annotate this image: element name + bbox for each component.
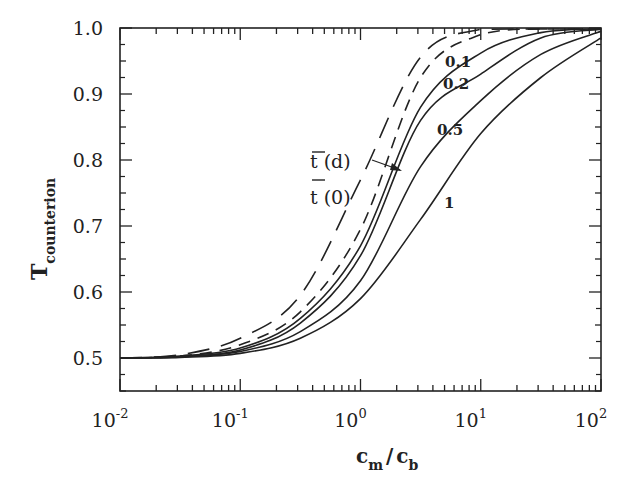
x-tick-label: 100 [334, 406, 366, 431]
x-title-sub2: b [409, 457, 419, 473]
y-title-sub: counterion [42, 178, 58, 264]
x-axis-title: cm/cb [356, 444, 419, 473]
curve-t-0- [120, 29, 601, 358]
y-axis-title: Tcounterion [26, 178, 58, 280]
curves [120, 29, 601, 358]
svg-text:cm/cb: cm/cb [356, 444, 419, 473]
axis-ticks [120, 28, 601, 391]
label-0-1: 0.1 [445, 53, 471, 71]
curve-t-d- [120, 29, 601, 358]
curve-1 [120, 38, 601, 358]
chart: 0.50.60.70.80.91.010-210-1100101102 t (d… [0, 0, 626, 492]
curve-0-5 [120, 31, 601, 358]
y-tick-label: 0.7 [73, 215, 103, 237]
x-tick-label: 10-2 [92, 406, 129, 431]
y-tick-label: 0.6 [73, 281, 103, 303]
y-tick-label: 0.9 [73, 83, 103, 105]
curve-0-1 [120, 29, 601, 358]
x-tick-label: 102 [575, 406, 607, 431]
label-t0: t (0) [310, 186, 351, 208]
curve-0-2 [120, 29, 601, 358]
y-tick-label: 1.0 [73, 17, 103, 39]
x-title-slash: / [386, 444, 394, 468]
y-tick-label: 0.5 [73, 347, 103, 369]
svg-text:Tcounterion: Tcounterion [26, 178, 58, 280]
label-0-2: 0.2 [443, 75, 469, 93]
label-td: t (d) [310, 150, 351, 172]
label-0-5: 0.5 [437, 121, 463, 139]
x-tick-label: 101 [455, 406, 487, 431]
y-title-main: T [26, 263, 52, 280]
y-tick-label: 0.8 [73, 149, 103, 171]
plot-frame [120, 28, 601, 391]
x-title-c2: c [396, 444, 408, 468]
x-title-sub1: m [368, 457, 383, 473]
label-1: 1 [444, 194, 454, 212]
x-tick-label: 10-1 [212, 406, 249, 431]
x-title-c1: c [356, 444, 368, 468]
